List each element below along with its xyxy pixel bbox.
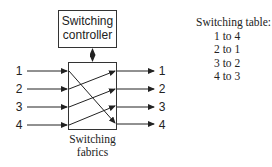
controller-label-line1: Switching [62,14,113,28]
output-label-3: 3 [159,100,166,114]
switching-table-row: 4 to 3 [196,70,272,84]
fabric-label-line2: fabrics [77,146,109,158]
input-label-3: 3 [16,100,23,114]
input-label-4: 4 [16,118,23,132]
output-label-4: 4 [159,118,166,132]
input-label-1: 1 [16,64,23,78]
switching-diagram: Switching controller Switching fabrics 1… [0,0,272,167]
output-label-1: 1 [159,64,166,78]
switching-fabric [69,63,117,130]
switching-table: Switching table: 1 to 4 2 to 1 3 to 2 4 … [196,16,272,84]
output-label-2: 2 [159,82,166,96]
switching-table-row: 3 to 2 [196,57,272,71]
input-label-2: 2 [16,82,23,96]
switching-controller: Switching controller [59,11,117,48]
controller-label-line2: controller [63,28,112,42]
switching-table-row: 2 to 1 [196,43,272,57]
switching-table-title: Switching table: [196,16,272,30]
fabric-label-line1: Switching [69,133,116,146]
switching-table-row: 1 to 4 [196,30,272,44]
